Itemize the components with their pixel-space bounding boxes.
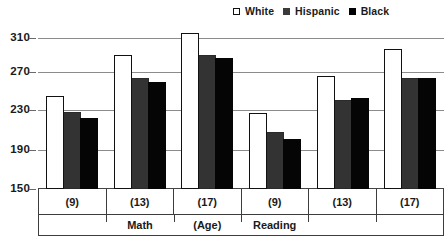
- bar-hispanic: [131, 78, 149, 189]
- bar-white: [317, 76, 335, 189]
- age-cell: (17): [377, 189, 444, 214]
- y-tick-mark: [29, 38, 36, 39]
- plot-area: [38, 26, 444, 189]
- bar-black: [148, 82, 166, 189]
- bar-group-math-9: [38, 26, 106, 189]
- y-tick-mark: [29, 150, 36, 151]
- bar-groups: [38, 26, 444, 189]
- bar-hispanic: [63, 112, 81, 189]
- y-axis: 310 270 230 190 150: [0, 26, 36, 191]
- age-cell: (13): [107, 189, 175, 214]
- y-tick-label: 190: [10, 144, 30, 156]
- x-tick-mark: [241, 215, 242, 222]
- legend-label-black: Black: [361, 6, 390, 17]
- x-tick-marks: [39, 215, 443, 235]
- bar-hispanic: [266, 132, 284, 189]
- bar-black: [351, 98, 369, 189]
- bar-black: [215, 58, 233, 189]
- square-outline-icon: [233, 8, 240, 15]
- square-filled-icon: [283, 8, 290, 15]
- age-cell: (17): [174, 189, 242, 214]
- age-cell: (9): [242, 189, 310, 214]
- legend-item-hispanic: Hispanic: [283, 6, 340, 17]
- x-tick-mark: [376, 215, 377, 222]
- legend-item-black: Black: [349, 6, 390, 17]
- y-tick-mark: [29, 189, 36, 190]
- x-tick-mark: [308, 215, 309, 222]
- bar-hispanic: [401, 78, 419, 189]
- chart-legend: White Hispanic Black: [233, 4, 443, 19]
- bar-black: [283, 139, 301, 189]
- bar-hispanic: [334, 100, 352, 189]
- bar-white: [384, 49, 402, 189]
- legend-label-hispanic: Hispanic: [295, 6, 340, 17]
- x-tick-mark: [106, 215, 107, 222]
- age-cell: (9): [39, 189, 107, 214]
- y-tick-label: 230: [10, 104, 30, 116]
- bar-white: [114, 55, 132, 189]
- bar-group-math-13: [106, 26, 174, 189]
- square-filled-icon: [349, 8, 356, 15]
- y-tick-label: 270: [10, 66, 30, 78]
- subject-label-row: Math (Age) Reading: [39, 215, 443, 235]
- age-cell: (13): [309, 189, 377, 214]
- bar-group-reading-17: [376, 26, 444, 189]
- y-tick-mark: [29, 110, 36, 111]
- bar-group-reading-9: [241, 26, 309, 189]
- y-tick-label: 150: [10, 183, 30, 195]
- legend-item-white: White: [233, 6, 274, 17]
- age-label-row: (9) (13) (17) (9) (13) (17): [39, 189, 443, 215]
- bar-group-math-17: [173, 26, 241, 189]
- bar-black: [80, 118, 98, 189]
- chart-page: White Hispanic Black 310 270 230 190 150: [0, 0, 448, 251]
- x-axis-table: (9) (13) (17) (9) (13) (17) Math (Age) R…: [38, 189, 444, 236]
- bar-white: [181, 33, 199, 189]
- bar-white: [249, 113, 267, 189]
- bar-group-reading-13: [309, 26, 377, 189]
- bar-hispanic: [198, 55, 216, 189]
- bar-white: [46, 96, 64, 189]
- x-tick-mark: [174, 215, 175, 222]
- legend-label-white: White: [245, 6, 274, 17]
- y-tick-label: 310: [10, 32, 30, 44]
- bar-black: [418, 78, 436, 189]
- y-tick-mark: [29, 72, 36, 73]
